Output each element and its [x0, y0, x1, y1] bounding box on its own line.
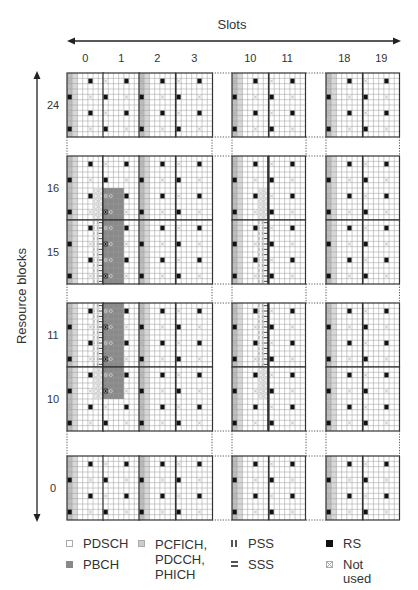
- lte-resource-grid-diagram: Slots 012310111819 Resource blocks 24161…: [0, 0, 418, 535]
- resource-block-slot-2-rb-11: [139, 303, 176, 367]
- resource-block-slot-11-rb-24: [269, 73, 306, 137]
- resource-block-slot-10-rb-11: [232, 303, 269, 367]
- resource-block-slot-19-rb-0: [363, 456, 400, 520]
- resource-block-slot-18-rb-15: [326, 220, 363, 284]
- legend-label: Not used: [343, 558, 371, 586]
- rb-label: 11: [47, 329, 58, 341]
- resource-block-slot-11-rb-15: [269, 220, 306, 284]
- resource-block-slot-18-rb-10: [326, 367, 363, 431]
- slot-label: 19: [375, 52, 387, 64]
- legend-label: PCFICH, PDCCH, PHICH: [155, 537, 207, 582]
- resource-block-slot-0-rb-10: [67, 367, 104, 431]
- legend-label: SSS: [248, 558, 274, 572]
- rs-swatch-icon: [326, 540, 333, 547]
- not-used-swatch-icon: [326, 561, 333, 568]
- resource-block-slot-0-rb-11: [67, 303, 104, 367]
- resource-block-slot-3-rb-24: [176, 73, 213, 137]
- resource-block-slot-2-rb-10: [139, 367, 176, 431]
- resource-block-slot-0-rb-24: [67, 73, 104, 137]
- resource-block-slot-3-rb-0: [176, 456, 213, 520]
- slot-label: 3: [191, 52, 197, 64]
- legend: PDSCH PCFICH, PDCCH, PHICH PSS RS PBCH S…: [66, 537, 416, 587]
- slots-axis-title: Slots: [218, 17, 247, 32]
- resource-block-slot-19-rb-15: [363, 220, 400, 284]
- pdsch-swatch-icon: [66, 540, 73, 547]
- rb-label: 16: [47, 182, 59, 194]
- resource-blocks-axis-title: Resource blocks: [14, 247, 29, 344]
- slot-label: 18: [338, 52, 350, 64]
- pbch-swatch-icon: [66, 561, 73, 568]
- rb-label: 24: [47, 99, 59, 111]
- resource-block-slot-10-rb-24: [232, 73, 269, 137]
- resource-block-slot-1-rb-15: [103, 220, 140, 284]
- rb-label: 10: [47, 393, 59, 405]
- resource-block-slot-18-rb-11: [326, 303, 363, 367]
- sss-swatch-icon: [231, 561, 238, 567]
- pss-swatch-icon: [231, 540, 237, 547]
- resource-block-slot-3-rb-15: [176, 220, 213, 284]
- resource-block-slot-11-rb-0: [269, 456, 306, 520]
- resource-block-slot-1-rb-11: [103, 303, 140, 367]
- resource-block-slot-1-rb-10: [103, 367, 140, 431]
- resource-block-slot-10-rb-10: [232, 367, 269, 431]
- legend-label: PSS: [248, 537, 274, 551]
- omitted-region-markers: [67, 73, 400, 520]
- legend-label: PDSCH: [83, 537, 129, 551]
- legend-label: RS: [343, 537, 361, 551]
- resource-block-slot-2-rb-0: [139, 456, 176, 520]
- resource-block-slot-3-rb-16: [176, 156, 213, 220]
- slot-label: 2: [154, 52, 160, 64]
- resource-block-slot-19-rb-24: [363, 73, 400, 137]
- slot-label: 1: [118, 52, 124, 64]
- resource-block-slot-10-rb-15: [232, 220, 269, 284]
- resource-block-slot-19-rb-16: [363, 156, 400, 220]
- resource-block-slot-2-rb-16: [139, 156, 176, 220]
- resource-block-slot-18-rb-0: [326, 456, 363, 520]
- rb-label: 0: [50, 482, 56, 494]
- resource-block-slot-0-rb-15: [67, 220, 104, 284]
- resource-block-slot-3-rb-10: [176, 367, 213, 431]
- resource-block-slot-3-rb-11: [176, 303, 213, 367]
- resource-block-slot-19-rb-11: [363, 303, 400, 367]
- resource-block-slot-2-rb-15: [139, 220, 176, 284]
- resource-block-slot-11-rb-10: [269, 367, 306, 431]
- resource-block-slot-11-rb-11: [269, 303, 306, 367]
- resource-block-slot-10-rb-0: [232, 456, 269, 520]
- resource-block-slot-0-rb-16: [67, 156, 104, 220]
- resource-block-slot-18-rb-24: [326, 73, 363, 137]
- legend-label: PBCH: [83, 558, 119, 572]
- resource-block-slot-18-rb-16: [326, 156, 363, 220]
- resource-block-slot-1-rb-16: [103, 156, 140, 220]
- resource-grid: [67, 73, 400, 520]
- resource-block-slot-0-rb-0: [67, 456, 104, 520]
- resource-block-slot-1-rb-24: [103, 73, 140, 137]
- resource-block-labels: 24161511100: [47, 99, 59, 494]
- slot-label: 10: [244, 52, 256, 64]
- slot-labels: 012310111819: [82, 52, 387, 64]
- resource-block-slot-10-rb-16: [232, 156, 269, 220]
- slots-axis-arrow: [67, 38, 401, 45]
- slot-label: 0: [82, 52, 88, 64]
- resource-blocks-axis-arrow: [34, 71, 41, 522]
- rb-label: 15: [47, 246, 59, 258]
- resource-block-slot-11-rb-16: [269, 156, 306, 220]
- resource-block-slot-1-rb-0: [103, 456, 140, 520]
- slot-label: 11: [282, 52, 293, 64]
- control-channel-swatch-icon: [138, 540, 145, 547]
- resource-block-slot-2-rb-24: [139, 73, 176, 137]
- resource-block-slot-19-rb-10: [363, 367, 400, 431]
